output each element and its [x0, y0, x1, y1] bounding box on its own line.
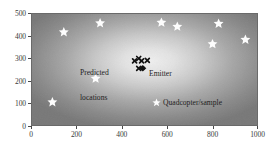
annotation-quadcopter-sample: Quadcopter/sample	[163, 99, 222, 107]
star-icon	[214, 19, 224, 28]
plot-area: Predicted locations Emitter Quadcopter/s…	[31, 13, 258, 126]
emitter-core	[141, 66, 145, 70]
star-icon	[172, 22, 182, 31]
star-icon	[59, 27, 69, 36]
xtick-label-200: 200	[71, 130, 82, 139]
ytick-label-0: 0	[12, 122, 26, 131]
xtick-1000	[257, 126, 258, 129]
xtick-label-800: 800	[207, 130, 218, 139]
legend-star-icon	[152, 98, 161, 107]
annotation-predicted-locations: Predicted locations	[80, 53, 109, 119]
ytick-label-400: 400	[5, 31, 26, 40]
ytick-0	[28, 126, 31, 127]
xtick-600	[167, 126, 168, 129]
annotation-predicted-line2: locations	[80, 94, 109, 102]
x-marker-icon	[145, 58, 149, 62]
ytick-label-100: 100	[5, 99, 26, 108]
xtick-0	[31, 126, 32, 129]
ytick-300	[28, 58, 31, 59]
xtick-800	[213, 126, 214, 129]
ytick-200	[28, 81, 31, 82]
star-icon	[208, 39, 218, 48]
xtick-200	[76, 126, 77, 129]
xtick-label-400: 400	[116, 130, 127, 139]
star-icon	[48, 97, 58, 106]
scatter-figure: Predicted locations Emitter Quadcopter/s…	[0, 0, 272, 148]
xtick-label-600: 600	[162, 130, 173, 139]
ytick-100	[28, 103, 31, 104]
annotation-emitter: Emitter	[149, 70, 172, 78]
ytick-label-300: 300	[5, 54, 26, 63]
markers-layer	[32, 14, 258, 126]
star-icon	[157, 17, 167, 26]
ytick-500	[28, 13, 31, 14]
xtick-label-0: 0	[29, 130, 33, 139]
star-icon	[241, 35, 251, 44]
annotation-predicted-line1: Predicted	[80, 69, 109, 77]
xtick-400	[122, 126, 123, 129]
xtick-label-1000: 1000	[250, 130, 265, 139]
ytick-label-500: 500	[5, 9, 26, 18]
ytick-400	[28, 36, 31, 37]
star-icon	[95, 18, 105, 27]
ytick-label-200: 200	[5, 76, 26, 85]
